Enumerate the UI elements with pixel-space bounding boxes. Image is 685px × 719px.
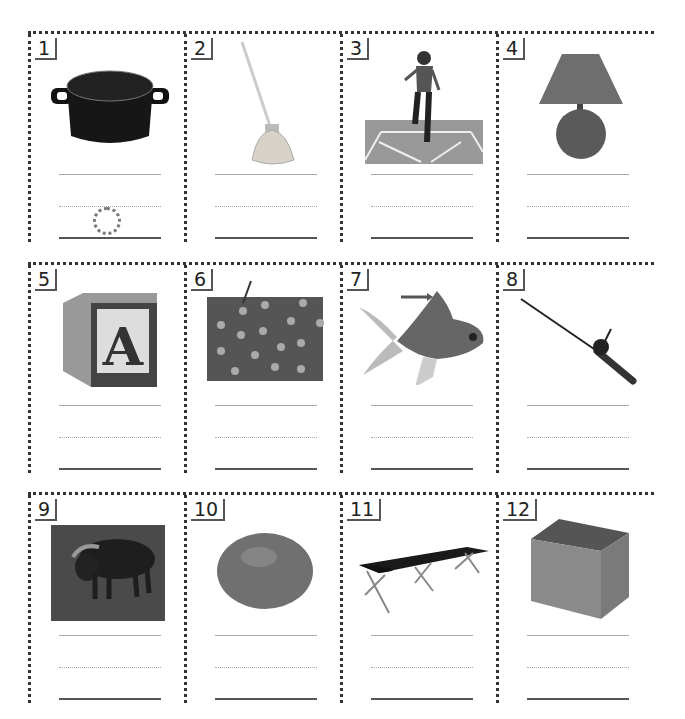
writing-line-base[interactable] [371,698,473,700]
cell-8: 8 [496,265,657,473]
writing-line-middle[interactable] [215,437,317,438]
writing-line-top[interactable] [215,635,317,636]
writing-line-top[interactable] [59,174,161,175]
writing-line-base[interactable] [215,237,317,239]
cell-number: 5 [35,269,57,291]
polka-dot-picture [205,277,327,383]
writing-line-middle[interactable] [527,437,629,438]
writing-line-middle[interactable] [371,206,473,207]
writing-line-base[interactable] [527,698,629,700]
cell-number: 9 [35,499,57,521]
ox-picture [51,525,165,621]
writing-line-middle[interactable] [527,206,629,207]
cot-picture [355,545,491,615]
writing-line-top[interactable] [59,405,161,406]
worksheet-row-2: 5 A 6 [28,262,654,475]
cell-3: 3 [340,34,497,242]
cell-10: 10 [184,495,341,703]
worksheet-row-3: 9 10 11 [28,492,654,705]
goldfish-picture [357,285,487,385]
writing-line-base[interactable] [371,237,473,239]
cell-11: 11 [340,495,497,703]
svg-text:A: A [102,316,144,377]
writing-line-top[interactable] [527,405,629,406]
writing-line-base[interactable] [215,698,317,700]
cell-2: 2 [184,34,341,242]
writing-line-top[interactable] [215,174,317,175]
cell-4: 4 [496,34,657,242]
writing-line-top[interactable] [371,174,473,175]
phonics-worksheet: 1 2 3 [0,0,685,719]
writing-line-base[interactable] [59,237,161,239]
writing-line-base[interactable] [527,237,629,239]
cell-12: 12 [496,495,657,703]
cell-number: 8 [503,269,525,291]
writing-line-middle[interactable] [215,667,317,668]
cell-6: 6 [184,265,341,473]
writing-line-middle[interactable] [371,667,473,668]
cell-number: 10 [191,499,225,521]
writing-line-middle[interactable] [527,667,629,668]
writing-line-top[interactable] [371,405,473,406]
mop-picture [232,40,302,168]
writing-line-middle[interactable] [371,437,473,438]
cell-7: 7 [340,265,497,473]
writing-line-base[interactable] [371,468,473,470]
writing-line-middle[interactable] [59,667,161,668]
trace-letter-o [93,207,121,235]
lamp-picture [537,52,627,164]
cell-9: 9 [28,495,185,703]
writing-line-middle[interactable] [59,437,161,438]
cell-number: 2 [191,38,213,60]
cell-number: 4 [503,38,525,60]
cell-number: 1 [35,38,57,60]
hopscotch-picture [361,42,483,166]
pot-picture [49,66,171,150]
cell-1: 1 [28,34,185,242]
cell-5: 5 A [28,265,185,473]
writing-line-base[interactable] [59,698,161,700]
writing-line-base[interactable] [527,468,629,470]
writing-line-middle[interactable] [215,206,317,207]
writing-line-base[interactable] [59,468,161,470]
fishing-rod-picture [517,295,639,391]
worksheet-row-1: 1 2 3 [28,31,654,244]
writing-line-top[interactable] [527,174,629,175]
cell-number: 11 [347,499,381,521]
writing-line-top[interactable] [527,635,629,636]
egg-picture [215,531,315,613]
writing-line-base[interactable] [215,468,317,470]
writing-line-top[interactable] [215,405,317,406]
writing-line-top[interactable] [59,635,161,636]
writing-line-top[interactable] [371,635,473,636]
box-picture [525,517,633,619]
alphabet-block-picture: A [61,291,161,389]
